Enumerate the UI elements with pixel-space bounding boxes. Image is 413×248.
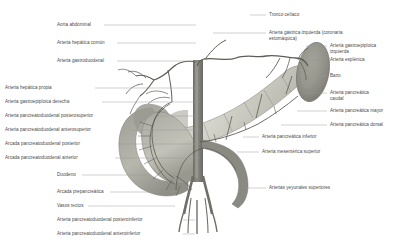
label-duodeno: Duodeno bbox=[57, 172, 76, 178]
label-vasos-rectos: Vasos rectos bbox=[57, 203, 83, 209]
label-aorta-abdominal: Aorta abdominal bbox=[57, 22, 91, 28]
label-arcada-prepancreatica: Arcada prepancreática bbox=[57, 189, 104, 195]
label-arteria-pancreatica-mayor: Arteria pancreática mayor bbox=[330, 108, 383, 114]
label-arterias-yeyunales-superiores: Arterias yeyunales superiores bbox=[269, 185, 330, 191]
label-arteria-hepatica-comun: Arteria hepática común bbox=[57, 40, 105, 46]
label-arcada-pancreatoduodenal-posterior: Arcada pancreatoduodenal posterior bbox=[5, 141, 80, 147]
label-arteria-hepatica-propia: Arteria hepática propia bbox=[5, 85, 52, 91]
label-arteria-pancreatoduodenal-anteroinferior: Arteria pancreatoduodenal anteroinferior bbox=[57, 231, 140, 237]
label-arteria-gastroepiploica-derecha: Arteria gastroepiploica derecha bbox=[5, 99, 69, 105]
label-arteria-mesenterica-superior: Arteria mesentérica superior bbox=[262, 149, 320, 155]
label-tronco-celiaco: Tronco celíaco bbox=[269, 12, 299, 18]
label-arteria-gastroepiploica-izquierda: Arteria gastroepiploica izquierda bbox=[330, 43, 412, 54]
label-arteria-gastrica-izquierda: Arteria gástrica izquierda (coronaria es… bbox=[269, 30, 377, 41]
label-arteria-gastroduodenal: Arteria gastroduodenal bbox=[57, 58, 104, 64]
label-arteria-pancreatoduodenal-posterosuperior: Arteria pancreatoduodenal posterosuperio… bbox=[5, 113, 93, 119]
label-arteria-pancreatica-caudal: Arteria pancreática caudal bbox=[330, 90, 412, 101]
label-arcada-pancreatoduodenal-anterior: Arcada pancreatoduodenal anterior bbox=[5, 155, 78, 161]
label-arteria-pancreatica-inferior: Arteria pancreática inferior bbox=[262, 134, 316, 140]
label-arteria-esplenica: Arteria esplénica bbox=[330, 57, 365, 63]
label-arteria-pancreatica-dorsal: Arteria pancreática dorsal bbox=[330, 122, 383, 128]
label-layer: Aorta abdominal Arteria hepática común A… bbox=[0, 0, 413, 248]
label-bazo: Bazo bbox=[330, 73, 341, 79]
anatomy-figure: Aorta abdominal Arteria hepática común A… bbox=[0, 0, 413, 248]
label-arteria-pancreatoduodenal-anterosuperior: Arteria pancreatoduodenal anterosuperior bbox=[5, 127, 91, 133]
label-arteria-pancreatoduodenal-posteroinferior: Arteria pancreatoduodenal posteroinferio… bbox=[57, 217, 143, 223]
